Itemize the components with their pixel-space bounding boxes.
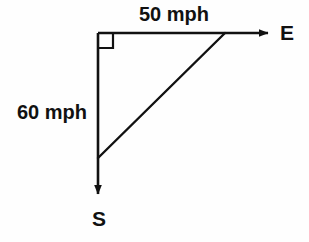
vertical-speed-label: 60 mph bbox=[17, 102, 87, 122]
horizontal-speed-label: 50 mph bbox=[139, 4, 209, 24]
direction-south-label: S bbox=[92, 208, 106, 229]
direction-east-label: E bbox=[280, 22, 294, 43]
right-angle-marker-icon bbox=[98, 33, 113, 48]
velocity-vector-diagram: 50 mph 60 mph E S bbox=[0, 0, 309, 242]
hypotenuse-line bbox=[98, 33, 225, 158]
